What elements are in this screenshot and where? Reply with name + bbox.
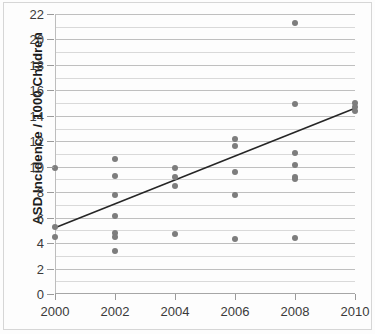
scatter-point [232, 169, 238, 175]
chart-figure: ASD Incidence / 1000 Children 0246810121… [0, 0, 375, 334]
x-axis-tick [295, 294, 296, 300]
y-axis-tick-label: 20 [30, 32, 44, 47]
y-axis-tick-label: 0 [37, 287, 44, 302]
scatter-point [172, 183, 178, 189]
scatter-point [292, 101, 298, 107]
y-axis-tick [47, 116, 54, 117]
scatter-point [292, 20, 298, 26]
y-axis-tick-label: 8 [37, 185, 44, 200]
x-axis-tick [115, 294, 116, 300]
y-axis-tick [47, 65, 54, 66]
scatter-point [232, 136, 238, 142]
y-axis-tick [47, 39, 54, 40]
x-axis-tick [55, 294, 56, 300]
y-axis-tick-label: 14 [30, 108, 44, 123]
scatter-point [292, 235, 298, 241]
x-axis-tick [235, 294, 236, 300]
scatter-point [112, 234, 118, 240]
plot-area: 0246810121416182022200020022004200620082… [55, 14, 355, 294]
x-axis-tick-label: 2008 [281, 304, 310, 319]
y-axis-tick-label: 4 [37, 236, 44, 251]
scatter-point [172, 165, 178, 171]
scatter-point [112, 173, 118, 179]
y-axis-tick-label: 18 [30, 57, 44, 72]
y-axis-tick-label: 22 [30, 7, 44, 22]
scatter-point [52, 234, 58, 240]
scatter-point [292, 176, 298, 182]
y-axis-tick-label: 12 [30, 134, 44, 149]
y-axis-tick-label: 16 [30, 83, 44, 98]
scatter-point [112, 248, 118, 254]
scatter-point [292, 162, 298, 168]
x-axis-tick-label: 2004 [161, 304, 190, 319]
y-axis-tick [47, 192, 54, 193]
scatter-point [232, 192, 238, 198]
y-axis-tick [47, 14, 54, 15]
y-axis-tick [47, 243, 54, 244]
x-axis-tick-label: 2000 [41, 304, 70, 319]
scatter-point [232, 236, 238, 242]
y-axis-tick [47, 90, 54, 91]
scatter-point [172, 174, 178, 180]
scatter-point [112, 192, 118, 198]
y-axis-tick-label: 6 [37, 210, 44, 225]
scatter-point [232, 143, 238, 149]
y-axis-tick [47, 294, 54, 295]
x-axis-tick-label: 2002 [101, 304, 130, 319]
scatter-point [292, 150, 298, 156]
data-points [55, 14, 355, 294]
x-axis-tick-label: 2010 [341, 304, 370, 319]
scatter-point [352, 108, 358, 114]
y-axis-tick-label: 10 [30, 159, 44, 174]
y-axis-tick [47, 269, 54, 270]
y-axis-tick [47, 167, 54, 168]
scatter-point [112, 213, 118, 219]
x-axis-tick [355, 294, 356, 300]
y-axis-tick [47, 218, 54, 219]
scatter-point [112, 156, 118, 162]
y-axis-tick-label: 2 [37, 261, 44, 276]
y-axis-tick [47, 141, 54, 142]
x-axis-tick-label: 2006 [221, 304, 250, 319]
scatter-point [172, 231, 178, 237]
scatter-point [52, 224, 58, 230]
x-axis-tick [175, 294, 176, 300]
